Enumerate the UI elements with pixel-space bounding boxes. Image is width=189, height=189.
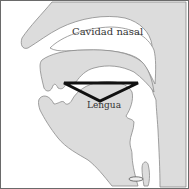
diagram-frame: Cavidad nasal Lengua [0, 0, 189, 189]
epiglottis [142, 162, 150, 186]
tongue-label: Lengua [87, 101, 121, 110]
hyoid-bone [129, 177, 143, 181]
nasal-cavity-label: Cavidad nasal [72, 27, 143, 37]
